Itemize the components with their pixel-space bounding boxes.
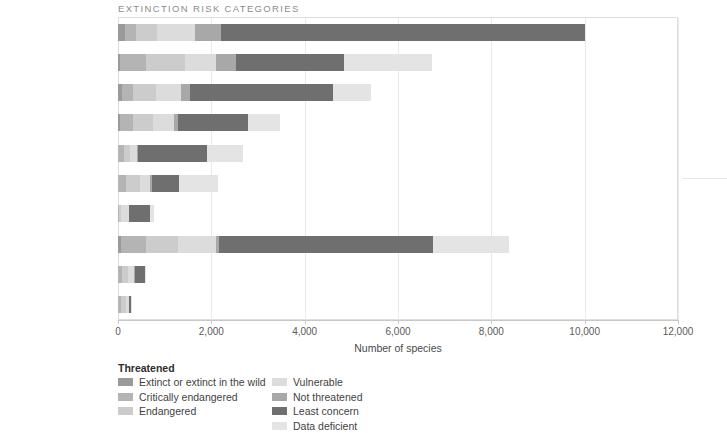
bar-row: Conifers <box>0 259 727 289</box>
bar-segment[interactable] <box>152 175 179 192</box>
x-tick-mark <box>398 320 399 324</box>
bar-segment[interactable] <box>129 205 150 222</box>
bar-segment[interactable] <box>190 84 333 101</box>
legend-swatch-icon <box>272 407 287 415</box>
legend-item[interactable]: Critically endangered <box>118 390 266 405</box>
legend-label: Critically endangered <box>139 390 238 405</box>
legend-item[interactable]: Not threatened <box>272 390 362 405</box>
bar-segment[interactable] <box>181 84 189 101</box>
stacked-bar[interactable] <box>118 296 132 313</box>
stacked-bar[interactable] <box>118 236 509 253</box>
bar-segment[interactable] <box>178 114 248 131</box>
stacked-bar[interactable] <box>118 24 585 41</box>
x-tick-mark <box>118 320 119 324</box>
bar-segment[interactable] <box>135 266 146 283</box>
x-tick-label: 10,000 <box>569 326 600 337</box>
bar-segment[interactable] <box>219 236 434 253</box>
legend-label: Least concern <box>293 404 359 419</box>
chart-title: EXTINCTION RISK CATEGORIES <box>118 3 300 14</box>
legend-label: Endangered <box>139 404 196 419</box>
legend-swatch-icon <box>272 422 287 430</box>
legend-swatch-icon <box>118 393 133 401</box>
legend-group-heading: Threatened <box>118 361 266 375</box>
bar-segment[interactable] <box>248 114 280 131</box>
stacked-bar[interactable] <box>118 114 280 131</box>
bar-segment[interactable] <box>146 236 178 253</box>
legend-label: Vulnerable <box>293 375 343 390</box>
bar-segment[interactable] <box>145 266 146 283</box>
bar-segment[interactable] <box>221 24 585 41</box>
legend-swatch-icon <box>118 378 133 386</box>
bar-row: Mammals <box>0 78 727 108</box>
x-tick-mark <box>585 320 586 324</box>
bar-row: Reptiles <box>0 108 727 138</box>
bar-segment[interactable] <box>118 24 125 41</box>
bar-segment[interactable] <box>150 205 154 222</box>
bar-segment[interactable] <box>122 84 133 101</box>
legend-column-other: VulnerableNot threatenedLeast concernDat… <box>272 375 362 433</box>
legend-item[interactable]: Data deficient <box>272 419 362 433</box>
x-tick-mark <box>491 320 492 324</box>
legend-swatch-icon <box>272 393 287 401</box>
bar-segment[interactable] <box>178 236 215 253</box>
bar-segment[interactable] <box>153 114 174 131</box>
legend-item[interactable]: Least concern <box>272 404 362 419</box>
bar-segment[interactable] <box>136 24 157 41</box>
legend-swatch-icon <box>118 407 133 415</box>
legend-swatch-icon <box>272 378 287 386</box>
bar-segment[interactable] <box>133 84 157 101</box>
bar-segment[interactable] <box>195 24 221 41</box>
bar-segment[interactable] <box>125 24 136 41</box>
bar-segment[interactable] <box>216 54 236 71</box>
legend-label: Data deficient <box>293 419 357 433</box>
legend-item[interactable]: Vulnerable <box>272 375 362 390</box>
legend-column-threatened: Threatened Extinct or extinct in the wil… <box>118 361 266 419</box>
legend-item[interactable]: Extinct or extinct in the wild <box>118 375 266 390</box>
bar-segment[interactable] <box>120 54 146 71</box>
stacked-bar[interactable] <box>118 266 146 283</box>
bar-segment[interactable] <box>118 175 126 192</box>
legend-label: Not threatened <box>293 390 362 405</box>
x-tick-mark <box>678 320 679 324</box>
legend-label: Extinct or extinct in the wild <box>139 375 266 390</box>
bar-segment[interactable] <box>433 236 509 253</box>
bar-segment[interactable] <box>133 114 153 131</box>
x-tick-label: 4,000 <box>292 326 317 337</box>
x-axis-title: Number of species <box>118 342 678 354</box>
bar-segment[interactable] <box>146 54 185 71</box>
x-tick-label: 8,000 <box>479 326 504 337</box>
bar-segment[interactable] <box>121 205 129 222</box>
legend-item[interactable]: Endangered <box>118 404 266 419</box>
x-tick-label: 6,000 <box>385 326 410 337</box>
bar-segment[interactable] <box>179 175 218 192</box>
bar-row: Corals <box>0 199 727 229</box>
stacked-bar[interactable] <box>118 84 371 101</box>
bar-row: Freshwater crabs <box>0 169 727 199</box>
x-tick-label: 0 <box>115 326 121 337</box>
bar-segment[interactable] <box>120 114 134 131</box>
bar-segment[interactable] <box>121 236 146 253</box>
x-tick-label: 12,000 <box>663 326 694 337</box>
bar-segment[interactable] <box>344 54 433 71</box>
bar-row: Amphibians <box>0 47 727 77</box>
bar-segment[interactable] <box>140 175 150 192</box>
bar-segment[interactable] <box>156 84 181 101</box>
bar-segment[interactable] <box>138 145 207 162</box>
bar-segment[interactable] <box>333 84 371 101</box>
stacked-bar[interactable] <box>118 205 154 222</box>
stacked-bar[interactable] <box>118 175 218 192</box>
stacked-bar[interactable] <box>118 145 243 162</box>
x-tick-mark <box>305 320 306 324</box>
bar-segment[interactable] <box>185 54 216 71</box>
bar-segment[interactable] <box>157 24 194 41</box>
bar-row: Freshwater fish <box>0 229 727 259</box>
bar-segment[interactable] <box>207 145 243 162</box>
x-tick-label: 2,000 <box>199 326 224 337</box>
stacked-bar[interactable] <box>118 54 432 71</box>
bar-segment[interactable] <box>126 175 140 192</box>
bar-row: Dragonflies <box>0 138 727 168</box>
bar-row: Birds <box>0 17 727 47</box>
bar-segment[interactable] <box>236 54 344 71</box>
x-tick-mark <box>211 320 212 324</box>
